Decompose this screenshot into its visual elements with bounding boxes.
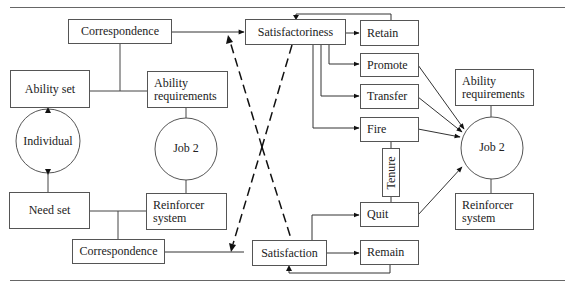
fire-box: Fire <box>360 117 419 142</box>
individual-label: Individual <box>16 134 80 149</box>
satisfactoriness-box: Satisfactoriness <box>245 19 346 45</box>
correspondence-top-label: Correspondence <box>81 25 159 38</box>
satisfactoriness-label: Satisfactoriness <box>258 26 333 39</box>
reinforcer-system-left-line2: system <box>153 212 186 225</box>
ability-requirements-left-box: Ability requirements <box>147 71 228 108</box>
reinforcer-system-right-line2: system <box>462 212 495 225</box>
need-set-box: Need set <box>9 192 90 229</box>
correspondence-bottom-label: Correspondence <box>80 245 158 258</box>
reinforcer-system-left-line1: Reinforcer <box>153 199 204 212</box>
quit-label: Quit <box>367 208 388 221</box>
reinforcer-system-right-line1: Reinforcer <box>462 199 513 212</box>
ability-requirements-right-line2: requirements <box>462 88 525 101</box>
retain-label: Retain <box>367 27 398 40</box>
transfer-label: Transfer <box>367 90 407 103</box>
ability-set-box: Ability set <box>10 70 90 108</box>
satisfaction-label: Satisfaction <box>261 247 318 260</box>
need-set-label: Need set <box>29 204 71 217</box>
satisfaction-box: Satisfaction <box>252 240 327 266</box>
quit-box: Quit <box>360 202 419 227</box>
ability-requirements-right-box: Ability requirements <box>455 69 534 106</box>
job2-right-label: Job 2 <box>462 140 522 155</box>
promote-box: Promote <box>360 53 419 77</box>
promote-label: Promote <box>367 59 408 72</box>
reinforcer-system-right-box: Reinforcer system <box>455 193 534 230</box>
fire-label: Fire <box>367 123 386 136</box>
reinforcer-system-left-box: Reinforcer system <box>146 193 227 230</box>
ability-requirements-left-line1: Ability <box>154 77 188 90</box>
ability-requirements-left-line2: requirements <box>154 90 217 103</box>
ability-requirements-right-line1: Ability <box>462 75 496 88</box>
transfer-box: Transfer <box>360 84 419 109</box>
job2-left-label: Job 2 <box>156 141 216 156</box>
correspondence-bottom-box: Correspondence <box>72 239 165 264</box>
retain-box: Retain <box>360 20 419 46</box>
remain-box: Remain <box>360 240 419 265</box>
diagram: Correspondence Ability set Ability requi… <box>0 0 570 288</box>
tenure-label: Tenure <box>383 149 399 197</box>
remain-label: Remain <box>367 246 404 259</box>
ability-set-label: Ability set <box>25 83 75 96</box>
correspondence-top-box: Correspondence <box>68 19 172 44</box>
